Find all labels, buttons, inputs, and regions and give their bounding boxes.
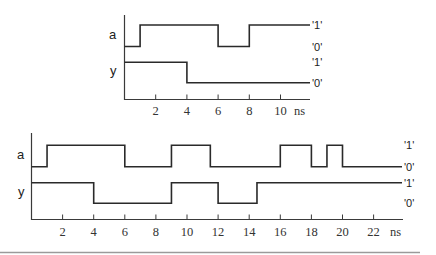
tick-label: 18 xyxy=(305,225,318,239)
tick-label: 6 xyxy=(215,104,221,118)
top-timing-diagram: 246810nsa'1''0'y'1''0' xyxy=(109,15,322,118)
tick-label: 6 xyxy=(122,225,128,239)
tick-label: 20 xyxy=(336,225,349,239)
tick-label: 16 xyxy=(274,225,287,239)
time-axis xyxy=(125,15,311,100)
tick-label: 10 xyxy=(181,225,194,239)
tick-label: 14 xyxy=(243,225,256,239)
level-zero-label: '0' xyxy=(312,41,322,53)
signal-name-label: a xyxy=(109,27,117,42)
signal-name-label: a xyxy=(17,147,25,162)
waveform xyxy=(125,25,311,47)
signal-y: y'1''0' xyxy=(18,177,414,210)
waveform xyxy=(125,62,311,82)
signal-a: a'1''0' xyxy=(109,19,322,53)
tick-label: 2 xyxy=(59,225,65,239)
tick-label: 4 xyxy=(184,104,191,118)
waveform xyxy=(32,145,403,166)
signal-a: a'1''0' xyxy=(17,139,414,172)
tick-label: 10 xyxy=(274,104,287,118)
level-zero-label: '0' xyxy=(404,197,414,209)
tick-label: 22 xyxy=(367,225,380,239)
signal-y: y'1''0' xyxy=(110,56,322,88)
level-one-label: '1' xyxy=(312,19,322,31)
tick-label: 2 xyxy=(153,104,159,118)
diagrams-root: 246810nsa'1''0'y'1''0'246810121416182022… xyxy=(17,15,414,239)
level-one-label: '1' xyxy=(404,139,414,151)
level-zero-label: '0' xyxy=(404,161,414,173)
level-zero-label: '0' xyxy=(312,77,322,89)
timing-diagrams-canvas: 246810nsa'1''0'y'1''0'246810121416182022… xyxy=(0,0,436,255)
tick-label: 12 xyxy=(212,225,225,239)
level-one-label: '1' xyxy=(404,177,414,189)
waveform xyxy=(32,183,403,204)
unit-label: ns xyxy=(390,225,401,239)
bottom-timing-diagram: 246810121416182022nsa'1''0'y'1''0' xyxy=(17,133,414,239)
tick-label: 8 xyxy=(246,104,252,118)
tick-label: 4 xyxy=(91,225,98,239)
signal-name-label: y xyxy=(18,184,25,199)
level-one-label: '1' xyxy=(312,56,322,68)
tick-label: 8 xyxy=(153,225,159,239)
unit-label: ns xyxy=(294,104,305,118)
signal-name-label: y xyxy=(110,63,117,78)
